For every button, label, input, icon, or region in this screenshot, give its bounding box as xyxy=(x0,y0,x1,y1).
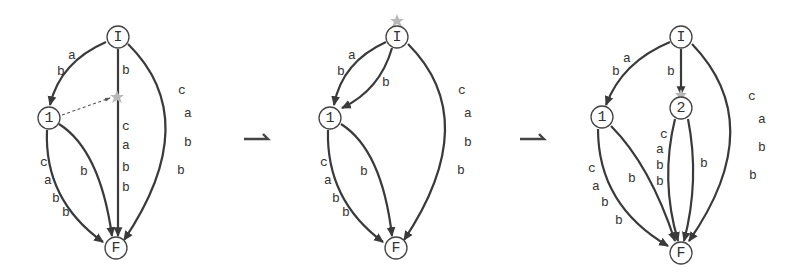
edge-label: a xyxy=(623,51,631,66)
edge-label: b xyxy=(749,168,757,183)
edge-label: c xyxy=(320,155,328,170)
edge-label: a xyxy=(464,106,472,121)
edge-label: a xyxy=(44,173,52,188)
node-I: I xyxy=(386,26,408,48)
svg-text:I: I xyxy=(676,29,685,46)
edge-label: a xyxy=(348,48,356,63)
edge-label: b xyxy=(700,156,708,171)
node-I: I xyxy=(107,26,129,48)
automaton-transformation-figure: a b b c a b b c a b b c a b b b I 1 F xyxy=(0,0,803,280)
edge-label: b xyxy=(332,191,340,206)
diagram-step-1: a b b c a b b c a b b c a b b b I 1 F xyxy=(38,26,192,259)
edge-label: c xyxy=(588,161,596,176)
edge-label: b xyxy=(122,180,130,195)
edge-label: b xyxy=(337,64,345,79)
edge-label: b xyxy=(360,164,368,179)
edge-label: b xyxy=(656,174,664,189)
edge-label: c xyxy=(458,83,466,98)
edge-2-to-F-right xyxy=(684,119,693,241)
transition-arrow-2 xyxy=(520,134,544,139)
svg-text:1: 1 xyxy=(597,109,606,126)
node-F: F xyxy=(385,237,407,259)
edge-label: a xyxy=(122,138,130,153)
edge-label: a xyxy=(758,112,766,127)
edge-I-to-F-right xyxy=(689,44,730,241)
node-F: F xyxy=(105,237,127,259)
svg-text:F: F xyxy=(111,240,120,257)
edge-label: a xyxy=(656,142,664,157)
edge-label: b xyxy=(62,205,70,220)
edge-label: b xyxy=(457,163,465,178)
edge-label: c xyxy=(748,89,756,104)
svg-text:1: 1 xyxy=(44,110,53,127)
svg-text:F: F xyxy=(676,245,685,262)
edge-label: b xyxy=(80,164,88,179)
edge-label: b xyxy=(758,140,766,155)
edge-label: a xyxy=(184,106,192,121)
svg-text:1: 1 xyxy=(325,110,334,127)
node-1: 1 xyxy=(319,107,341,129)
edge-label: b xyxy=(667,64,675,79)
edge-label: b xyxy=(177,163,185,178)
edge-label: b xyxy=(52,191,60,206)
edge-label: b xyxy=(464,135,472,150)
edge-label: a xyxy=(592,179,600,194)
node-F: F xyxy=(670,242,692,264)
edge-label: b xyxy=(184,135,192,150)
edge-label: b xyxy=(656,158,664,173)
node-2: 2 xyxy=(670,97,692,119)
svg-text:F: F xyxy=(391,240,400,257)
edge-label: b xyxy=(628,171,636,186)
edge-1-to-F-left xyxy=(328,130,383,242)
svg-text:I: I xyxy=(113,29,122,46)
edge-label: b xyxy=(601,195,609,210)
diagram-step-2: a b b c a b b c a b b b I 1 F xyxy=(319,14,472,259)
svg-text:2: 2 xyxy=(676,100,685,117)
node-1: 1 xyxy=(591,106,613,128)
edge-label: c xyxy=(40,155,48,170)
edge-label: a xyxy=(324,173,332,188)
edge-label: b xyxy=(342,205,350,220)
edge-label: b xyxy=(615,213,623,228)
diagram-step-3: a b b c a b b c a b b b c a b b b I 1 2 … xyxy=(588,26,766,264)
edge-label: a xyxy=(68,48,76,63)
edge-1-to-F-left xyxy=(47,130,103,242)
transition-arrow-1 xyxy=(244,134,268,139)
edge-label: c xyxy=(122,119,130,134)
edge-label: b xyxy=(57,64,65,79)
edge-I-to-F-right xyxy=(404,44,445,240)
edge-I-to-F-right xyxy=(124,44,166,240)
node-I: I xyxy=(670,26,692,48)
node-1: 1 xyxy=(38,107,60,129)
edge-label: b xyxy=(122,63,130,78)
svg-text:I: I xyxy=(392,29,401,46)
edge-label: c xyxy=(178,83,186,98)
star-marker-icon xyxy=(390,14,404,27)
edge-label: c xyxy=(660,127,668,142)
edge-label: b xyxy=(122,160,130,175)
edge-label: b xyxy=(612,64,620,79)
edge-label: b xyxy=(382,75,390,90)
dashed-edge-1-to-star xyxy=(62,98,110,115)
